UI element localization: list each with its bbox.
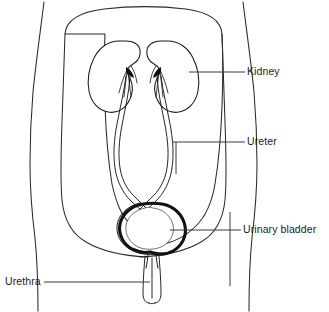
urethra-left-wall [143, 256, 149, 303]
urethra-right-wall [155, 256, 161, 303]
urinary-system-diagram: Kidney Ureter Urinary bladder Urethra [0, 0, 329, 312]
label-kidney: Kidney [247, 66, 280, 77]
urinary-bladder-group [117, 203, 186, 268]
body-outline-right [243, 2, 257, 311]
body-outline-left [30, 2, 44, 311]
urethra-group [143, 256, 161, 304]
bladder-lumen [126, 207, 174, 249]
anatomy-illustration [0, 0, 329, 312]
urethra-tip [149, 303, 155, 304]
label-urinary-bladder: Urinary bladder [243, 224, 316, 235]
right-kidney-group [147, 41, 199, 112]
label-urethra: Urethra [5, 276, 41, 287]
label-ureter: Ureter [247, 136, 277, 147]
left-kidney-group [88, 41, 140, 112]
